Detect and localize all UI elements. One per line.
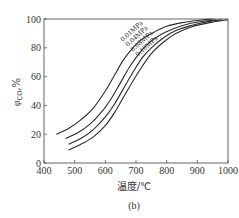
y-tick-label: 60 bbox=[31, 71, 41, 82]
line-chart: 020406080100 4005006007008009001000 0.01… bbox=[0, 0, 239, 218]
x-tick-label: 1000 bbox=[218, 165, 238, 176]
y-tick-label: 40 bbox=[31, 100, 41, 111]
curve-labels: 0.01MPa0.04MPa0.08MPa0.10MPa bbox=[118, 18, 160, 58]
y-tick-label: 100 bbox=[26, 14, 41, 25]
figure-caption: (b) bbox=[128, 200, 140, 212]
x-tick-label: 600 bbox=[98, 165, 113, 176]
y-tick-label: 20 bbox=[31, 129, 41, 140]
x-axis-ticks: 4005006007008009001000 bbox=[37, 160, 239, 176]
x-tick-label: 900 bbox=[190, 165, 205, 176]
x-axis-title: 温度/℃ bbox=[117, 180, 152, 192]
y-tick-label: 80 bbox=[31, 42, 41, 53]
x-tick-label: 500 bbox=[67, 165, 82, 176]
x-tick-label: 400 bbox=[37, 165, 52, 176]
x-tick-label: 800 bbox=[159, 165, 174, 176]
y-axis-title: φCO,% bbox=[11, 78, 24, 106]
x-tick-label: 700 bbox=[129, 165, 144, 176]
